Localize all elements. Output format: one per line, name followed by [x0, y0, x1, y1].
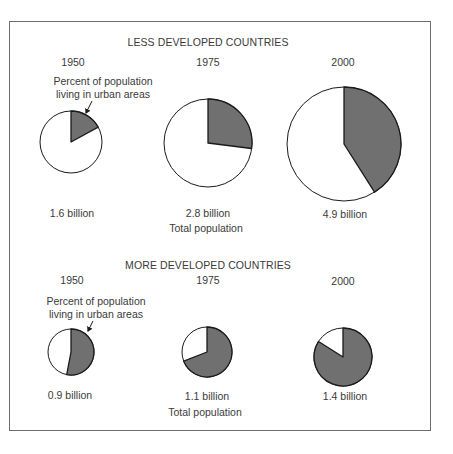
pie-ldc-1	[164, 99, 252, 187]
ldc-annotation-arrow-icon	[86, 101, 92, 113]
urban-slice	[67, 329, 94, 375]
pie-ldc-0	[40, 111, 102, 173]
pie-mdc-4	[182, 327, 232, 377]
pie-layer	[40, 87, 401, 386]
pie-charts	[0, 0, 453, 454]
pie-ldc-2	[287, 87, 401, 201]
pie-mdc-3	[48, 329, 94, 375]
urban-slice	[208, 99, 252, 149]
mdc-annotation-arrow-icon	[88, 321, 93, 331]
pie-mdc-5	[314, 328, 372, 386]
